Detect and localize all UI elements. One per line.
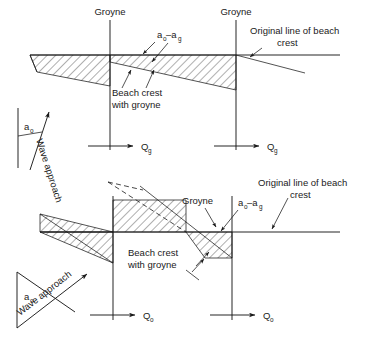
alpha-sub-top: o [30,127,34,134]
original-crest-callout-bottom: Original line of beach crest [258,177,347,229]
beach-crest-callout-top: Beach crest with groyne [111,70,163,110]
accretion-wedge-right-bottom [186,232,232,258]
coastal-groyne-diagram: Groyne Groyne a o –a g Original line of … [0,0,370,340]
original-crest-leader-top [250,48,262,57]
original-crest-line2-top: crest [277,37,298,48]
beach-crest-downdrift-top [236,55,305,73]
beach-crest-leader-a-top [122,70,131,88]
groyne-right-label-top: Groyne [220,6,251,17]
accretion-wedge-left [30,55,110,86]
beach-crest-leader-b-bottom [192,259,204,272]
angle-difference-group-bottom: a o –a g [221,197,263,231]
angle-difference-leader-a-top [143,42,155,54]
transport-right-sub-bottom: o [270,316,274,323]
groyne-left-label-top: Groyne [94,6,125,17]
original-crest-callout-top: Original line of beach crest [250,25,339,57]
wave-approach-rosette-bottom: a o Wave approach [14,268,87,328]
angle-difference-dash-bottom: –a [247,197,258,208]
angle-difference-leader-bottom [221,210,238,231]
beach-crest-callout-bottom: Beach crest with groyne [127,247,209,280]
original-crest-leader-bottom [272,198,288,229]
beach-crest-line1-top: Beach crest [112,87,163,98]
top-panel: Groyne Groyne a o –a g Original line of … [18,6,340,204]
diagram-canvas: Groyne Groyne a o –a g Original line of … [0,0,370,340]
angle-difference-sub2-bottom: g [259,203,263,211]
beach-crest-line2-bottom: with groyne [127,259,177,270]
accretion-wedge-middle-bottom [113,200,186,232]
beach-crest-line2-top: with groyne [111,99,161,110]
original-crest-line2-bottom: crest [290,189,311,200]
accretion-sliver-left-bottom [40,214,113,232]
wave-approach-label-top: Wave approach [34,137,65,203]
transport-right-sub-top: g [274,147,278,155]
angle-difference-sub2-top: g [178,35,182,43]
transport-right-group-bottom: Q o [210,310,274,323]
transport-left-group-top: Q g [88,141,152,155]
original-crest-line1-top: Original line of beach [250,25,339,36]
beach-crest-leader-b-top [146,70,154,88]
erosion-wedge-left-bottom [40,232,113,263]
accretion-wedge-middle [110,55,236,90]
wave-approach-rosette-top: a o Wave approach [18,108,65,204]
projection-dashed-line-bottom[interactable] [108,182,143,190]
transport-left-sub-top: g [148,147,152,155]
groyne-leader-bottom [205,208,216,227]
original-crest-line1-bottom: Original line of beach [258,177,347,188]
transport-left-sub-bottom: o [150,316,154,323]
beach-crest-line1-bottom: Beach crest [128,247,179,258]
groyne-label-bottom: Groyne [182,195,213,206]
transport-left-group-bottom: Q o [90,310,154,323]
transport-right-group-top: Q g [214,141,278,155]
groyne-callout-bottom: Groyne [182,195,216,227]
angle-difference-dash-top: –a [166,29,177,40]
